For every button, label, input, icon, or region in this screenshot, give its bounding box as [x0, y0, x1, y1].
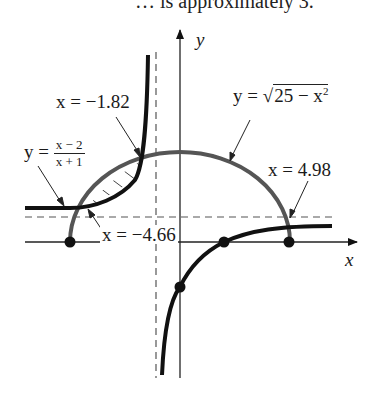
- hyperbola-numerator: x − 2: [54, 138, 85, 154]
- radicand-exponent: 2: [323, 85, 329, 97]
- radicand-text: 25 − x: [274, 85, 323, 106]
- semicircle-left-endpoint: [65, 237, 76, 248]
- hyperbola-fraction: x − 2 x + 1: [54, 138, 85, 168]
- semicircle-right-endpoint: [284, 237, 295, 248]
- x-axis-label-text: x: [345, 249, 353, 270]
- hyperbola-right-branch: [162, 226, 332, 375]
- semicircle-label: y = √25 − x2: [233, 86, 328, 105]
- annotation-left-intersection: x = −1.82: [56, 92, 130, 111]
- semicircle-label-lhs: y =: [233, 85, 258, 106]
- hyperbola-denominator: x + 1: [54, 154, 85, 169]
- hyperbola-left-branch: [25, 55, 148, 208]
- graph-figure: [0, 0, 377, 397]
- hyperbola-label: y = x − 2 x + 1: [24, 138, 85, 168]
- annotation-lower-intersection: x = −4.66: [100, 225, 178, 244]
- sqrt-symbol-icon: √: [263, 85, 273, 106]
- semicircle-radicand: 25 − x2: [273, 84, 328, 106]
- y-axis-label: y: [196, 30, 204, 49]
- annotation-right-intersection: x = 4.98: [268, 160, 331, 179]
- hyperbola-x-intercept: [219, 237, 230, 248]
- arrow-x-498: [292, 181, 308, 215]
- y-axis-label-text: y: [196, 29, 204, 50]
- hyperbola-y-intercept: [175, 282, 186, 293]
- x-axis-label: x: [345, 250, 353, 269]
- arrow-hyperbola-label: [38, 166, 62, 204]
- arrow-semicircle-label: [231, 120, 250, 158]
- hyperbola-label-lhs: y =: [24, 141, 49, 162]
